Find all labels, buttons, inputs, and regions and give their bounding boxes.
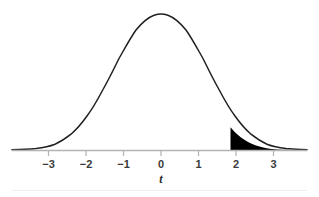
x-tick-label-3: 3	[262, 158, 286, 170]
shaded-tail-region	[231, 127, 308, 150]
x-tick-label-1: 1	[187, 158, 211, 170]
t-distribution-figure: −3 −2 −1 0 1 2 3 t	[0, 0, 319, 197]
x-tick-label-neg1: −1	[112, 158, 136, 170]
density-curve	[12, 14, 307, 150]
x-tick-label-2: 2	[224, 158, 248, 170]
x-tick-label-neg2: −2	[74, 158, 98, 170]
x-tick-label-neg3: −3	[37, 158, 61, 170]
footer-divider	[12, 190, 307, 191]
x-tick-label-0: 0	[149, 158, 173, 170]
x-axis-title: t	[149, 173, 173, 185]
